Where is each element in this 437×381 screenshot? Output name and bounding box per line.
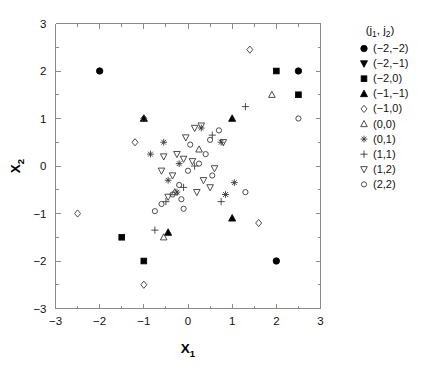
data-point [207, 185, 214, 191]
data-point [75, 210, 81, 217]
data-point [200, 178, 207, 184]
x-axis-label: X1 [181, 341, 196, 359]
data-point [203, 152, 208, 157]
data-point [242, 103, 249, 110]
legend-marker-filled-square-icon [361, 76, 367, 82]
series-12 [158, 123, 226, 200]
data-point [176, 160, 183, 167]
data-point [295, 68, 301, 74]
axes: −3−2−10123−3−2−10123 [33, 18, 323, 327]
y-tick-label: 1 [40, 113, 46, 125]
data-point [160, 154, 167, 160]
data-point [147, 151, 154, 158]
data-point [177, 182, 182, 187]
legend-marker-asterisk-icon [361, 136, 368, 143]
data-point [243, 190, 248, 195]
series-22 [152, 116, 301, 214]
x-tick-label: 2 [273, 315, 279, 327]
y-tick-label: −1 [33, 208, 46, 220]
x-tick-label: −2 [93, 315, 106, 327]
legend-label: (0,1) [373, 133, 396, 145]
y-tick-label: −2 [33, 255, 46, 267]
data-point [174, 151, 181, 157]
legend-marker-open-triangle-down-icon [361, 167, 368, 173]
data-point [174, 189, 181, 196]
legend-marker-filled-circle-icon [361, 45, 367, 51]
data-point [296, 116, 301, 121]
legend-item[interactable]: (0,1) [361, 133, 396, 145]
data-point [210, 173, 215, 178]
data-point [181, 206, 186, 211]
legend-item[interactable]: (0,0) [361, 118, 396, 130]
axis-spines [56, 24, 321, 309]
plot-canvas: −3−2−10123−3−2−10123 X1X2 (j1, j2)(−2,−2… [0, 0, 437, 381]
series-m1m1 [140, 115, 235, 236]
data-point [196, 161, 201, 166]
data-point [269, 91, 276, 97]
legend-item[interactable]: (2,2) [361, 178, 395, 190]
legend-label: (−2,−1) [373, 57, 408, 69]
legend-label: (−2,0) [373, 72, 402, 84]
x-tick-label: −3 [49, 315, 62, 327]
legend-label: (−1,−1) [373, 87, 408, 99]
data-point [182, 135, 189, 141]
data-point [231, 179, 238, 186]
data-point [132, 139, 138, 146]
scatter-plot-figure: −3−2−10123−3−2−10123 X1X2 (j1, j2)(−2,−2… [0, 0, 437, 381]
data-point [119, 234, 125, 240]
data-point [165, 177, 172, 184]
legend-label: (1,2) [373, 163, 396, 175]
legend-item[interactable]: (−1,0) [361, 102, 402, 114]
axis-frame-top-right [56, 24, 321, 309]
data-point [188, 142, 193, 147]
data-point [222, 191, 229, 198]
legend-label: (2,2) [373, 178, 396, 190]
series-m10 [75, 46, 262, 288]
legend-label: (−1,0) [373, 102, 402, 114]
legend-marker-open-triangle-up-icon [361, 121, 368, 127]
legend-marker-open-diamond-icon [361, 105, 367, 112]
legend-label: (1,1) [373, 148, 396, 160]
legend-item[interactable]: (−1,−1) [360, 87, 408, 99]
data-point [151, 227, 158, 234]
y-axis-label: X2 [8, 159, 26, 173]
legend-item[interactable]: (−2,−2) [361, 42, 409, 54]
data-point [247, 46, 253, 53]
data-point [152, 209, 157, 214]
data-point [194, 189, 201, 195]
x-tick-label: 1 [229, 315, 235, 327]
data-point [159, 201, 164, 206]
data-point [179, 197, 184, 202]
data-point [160, 139, 167, 146]
legend-item[interactable]: (1,2) [361, 163, 396, 175]
data-point [196, 146, 203, 152]
legend-item[interactable]: (1,1) [360, 148, 395, 160]
legend-title: (j1, j2) [366, 24, 395, 39]
x-tick-label: 0 [185, 315, 191, 327]
legend-label: (0,0) [373, 118, 396, 130]
legend-marker-filled-triangle-down-icon [360, 61, 367, 68]
x-tick-label: −1 [137, 315, 150, 327]
data-point [185, 168, 190, 173]
data-point [191, 125, 198, 131]
data-point [207, 137, 212, 142]
data-point [158, 168, 165, 174]
data-point [141, 281, 147, 288]
data-point [273, 258, 279, 264]
data-point [296, 92, 302, 98]
legend: (j1, j2)(−2,−2)(−2,−1)(−2,0)(−1,−1)(−1,0… [360, 24, 408, 190]
data-point [273, 68, 279, 74]
data-point [256, 219, 262, 226]
legend-item[interactable]: (−2,−1) [360, 57, 408, 69]
data-point [216, 128, 221, 133]
data-point [96, 68, 102, 74]
y-tick-label: 0 [40, 160, 46, 172]
data-point [141, 258, 147, 264]
data-point [218, 198, 225, 205]
legend-marker-open-circle-icon [361, 182, 366, 187]
data-point [229, 215, 236, 222]
legend-item[interactable]: (−2,0) [361, 72, 402, 84]
y-tick-label: 3 [40, 18, 46, 30]
data-points [75, 46, 302, 288]
legend-label: (−2,−2) [373, 42, 408, 54]
